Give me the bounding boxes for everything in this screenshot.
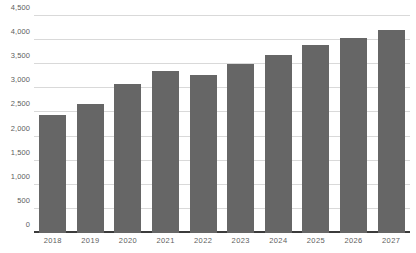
x-axis-tick-labels: 2018201920202021202220232024202520262027 [34,236,410,245]
plot-area [34,16,410,233]
x-axis-tick-label: 2027 [372,236,410,245]
bar-slot [372,16,410,233]
x-axis-tick-label: 2024 [260,236,298,245]
x-axis-tick-label: 2018 [34,236,72,245]
y-axis-tick-label: 0 [0,221,30,229]
y-axis-tick-label: 2,500 [0,100,30,108]
bar-2020[interactable] [114,84,141,233]
bar-slot [34,16,72,233]
y-axis-tick-label: 500 [0,197,30,205]
bar-slot [184,16,222,233]
bar-2026[interactable] [340,38,367,233]
y-axis-tick-label: 4,000 [0,28,30,36]
bar-2023[interactable] [227,64,254,233]
bars-layer [34,16,410,233]
bar-slot [260,16,298,233]
y-axis-tick-label: 2,000 [0,125,30,133]
bar-2019[interactable] [77,104,104,233]
bar-slot [335,16,373,233]
bar-slot [147,16,185,233]
bar-slot [222,16,260,233]
y-axis-tick-label: 1,000 [0,173,30,181]
bar-chart: 05001,0001,5002,0002,5003,0003,5004,0004… [0,0,416,253]
bar-2021[interactable] [152,71,179,233]
bar-2025[interactable] [302,45,329,233]
bar-slot [109,16,147,233]
x-axis-tick-label: 2026 [335,236,373,245]
bar-2018[interactable] [39,115,66,233]
y-axis-tick-label: 4,500 [0,4,30,12]
bar-slot [72,16,110,233]
x-axis-tick-label: 2021 [147,236,185,245]
bar-slot [297,16,335,233]
x-axis-tick-label: 2019 [72,236,110,245]
y-axis-tick-labels: 05001,0001,5002,0002,5003,0003,5004,0004… [0,16,30,233]
bar-2022[interactable] [190,75,217,233]
y-axis-tick-label: 1,500 [0,149,30,157]
y-axis-tick-label: 3,500 [0,52,30,60]
x-axis-tick-label: 2022 [184,236,222,245]
x-axis-tick-label: 2025 [297,236,335,245]
bar-2024[interactable] [265,55,292,233]
x-axis-tick-label: 2023 [222,236,260,245]
bar-2027[interactable] [378,30,405,233]
x-axis-tick-label: 2020 [109,236,147,245]
y-axis-tick-label: 3,000 [0,76,30,84]
